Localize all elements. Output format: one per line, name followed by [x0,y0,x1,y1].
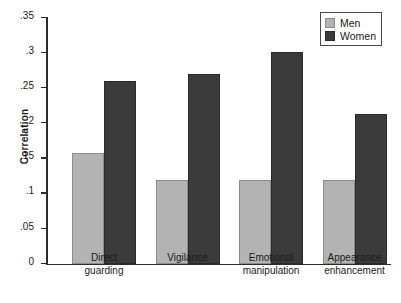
y-axis-title: Correlation [19,82,30,192]
legend-label-men: Men [340,17,360,29]
y-tick-label: 0 [0,256,34,267]
y-tick-label: .2 [0,115,34,126]
x-axis-label-4: Appearance enhancement [301,252,401,277]
y-tick: .15 [41,157,47,158]
y-tick: .1 [41,192,47,193]
bar-women-3 [271,52,303,264]
y-tick: .2 [41,122,47,123]
y-tick: 0 [41,263,47,264]
y-tick-label: .25 [0,80,34,91]
plot-area: 0.05.1.15.2.25.3.35 [46,17,391,265]
y-tick: .35 [41,17,47,18]
y-tick: .05 [41,228,47,229]
legend-item-men: Men [325,16,376,29]
legend: MenWomen [320,12,382,46]
bar-men-1 [72,153,104,264]
legend-swatch-men [325,18,335,28]
bar-women-1 [104,81,136,264]
bar-women-2 [188,74,220,264]
y-tick-label: .1 [0,185,34,196]
legend-label-women: Women [340,30,376,42]
y-tick-label: .05 [0,221,34,232]
y-tick: .3 [41,52,47,53]
bar-women-4 [355,114,387,264]
y-tick-label: .3 [0,45,34,56]
legend-swatch-women [325,31,335,41]
y-tick-label: .15 [0,150,34,161]
legend-item-women: Women [325,29,376,42]
bar-chart: Correlation 0.05.1.15.2.25.3.35 Direct g… [0,0,401,303]
y-tick-label: .35 [0,10,34,21]
y-tick: .25 [41,87,47,88]
